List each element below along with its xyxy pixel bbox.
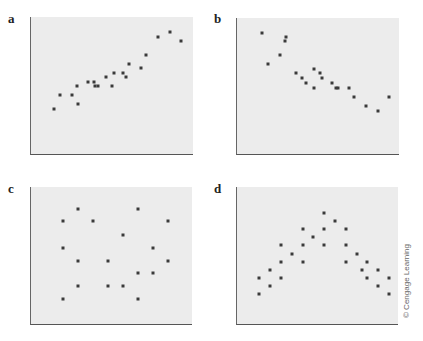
data-point bbox=[345, 261, 348, 264]
data-point bbox=[107, 285, 110, 288]
data-point bbox=[258, 293, 261, 296]
copyright-credit: © Cengage Learning bbox=[402, 244, 411, 318]
data-point bbox=[152, 247, 155, 250]
data-point bbox=[71, 94, 74, 97]
scatter-plot-c bbox=[30, 187, 192, 325]
data-point bbox=[388, 277, 391, 280]
data-point bbox=[107, 260, 110, 263]
data-point bbox=[111, 85, 114, 88]
data-point bbox=[77, 103, 80, 106]
data-point bbox=[331, 82, 334, 85]
data-point bbox=[122, 72, 125, 75]
data-point bbox=[77, 285, 80, 288]
data-point bbox=[345, 244, 348, 247]
data-point bbox=[59, 94, 62, 97]
data-point bbox=[62, 247, 65, 250]
data-point bbox=[62, 220, 65, 223]
data-point bbox=[269, 269, 272, 272]
data-point bbox=[377, 269, 380, 272]
data-point bbox=[94, 85, 97, 88]
data-point bbox=[361, 269, 364, 272]
data-point bbox=[301, 77, 304, 80]
data-point bbox=[280, 244, 283, 247]
data-point bbox=[280, 277, 283, 280]
scatter-points bbox=[31, 187, 193, 325]
data-point bbox=[323, 212, 326, 215]
data-point bbox=[261, 32, 264, 35]
data-point bbox=[93, 81, 96, 84]
data-point bbox=[113, 72, 116, 75]
data-point bbox=[128, 63, 131, 66]
panel-label-c: c bbox=[8, 182, 14, 195]
data-point bbox=[377, 110, 380, 113]
data-point bbox=[152, 272, 155, 275]
data-point bbox=[53, 108, 56, 111]
data-point bbox=[334, 220, 337, 223]
data-point bbox=[337, 87, 340, 90]
data-point bbox=[366, 277, 369, 280]
data-point bbox=[269, 285, 272, 288]
data-point bbox=[122, 285, 125, 288]
data-point bbox=[353, 96, 356, 99]
data-point bbox=[284, 40, 287, 43]
scatter-points bbox=[237, 187, 399, 325]
data-point bbox=[125, 76, 128, 79]
data-point bbox=[323, 244, 326, 247]
data-point bbox=[319, 72, 322, 75]
data-point bbox=[302, 228, 305, 231]
data-point bbox=[356, 253, 359, 256]
data-point bbox=[279, 54, 282, 57]
data-point bbox=[137, 298, 140, 301]
data-point bbox=[137, 208, 140, 211]
data-point bbox=[157, 36, 160, 39]
data-point bbox=[167, 260, 170, 263]
data-point bbox=[180, 40, 183, 43]
data-point bbox=[348, 87, 351, 90]
data-point bbox=[62, 298, 65, 301]
data-point bbox=[388, 293, 391, 296]
data-point bbox=[280, 261, 283, 264]
data-point bbox=[140, 67, 143, 70]
data-point bbox=[323, 228, 326, 231]
scatter-points bbox=[237, 18, 400, 155]
data-point bbox=[305, 82, 308, 85]
data-point bbox=[169, 31, 172, 34]
data-point bbox=[291, 253, 294, 256]
data-point bbox=[313, 87, 316, 90]
data-point bbox=[312, 236, 315, 239]
data-point bbox=[267, 63, 270, 66]
data-point bbox=[76, 85, 79, 88]
data-point bbox=[377, 285, 380, 288]
data-point bbox=[92, 220, 95, 223]
scatter-points bbox=[31, 17, 194, 155]
data-point bbox=[145, 54, 148, 57]
data-point bbox=[137, 272, 140, 275]
data-point bbox=[345, 228, 348, 231]
data-point bbox=[295, 72, 298, 75]
panel-label-d: d bbox=[214, 182, 221, 195]
data-point bbox=[365, 105, 368, 108]
data-point bbox=[366, 261, 369, 264]
data-point bbox=[122, 234, 125, 237]
data-point bbox=[77, 208, 80, 211]
data-point bbox=[167, 220, 170, 223]
data-point bbox=[105, 76, 108, 79]
panel-label-a: a bbox=[8, 12, 15, 25]
panel-label-b: b bbox=[214, 12, 221, 25]
scatter-plot-b bbox=[236, 18, 399, 155]
data-point bbox=[285, 36, 288, 39]
data-point bbox=[388, 96, 391, 99]
data-point bbox=[258, 277, 261, 280]
scatter-plot-a bbox=[30, 17, 193, 155]
data-point bbox=[302, 244, 305, 247]
data-point bbox=[313, 68, 316, 71]
data-point bbox=[321, 77, 324, 80]
data-point bbox=[302, 261, 305, 264]
data-point bbox=[77, 260, 80, 263]
scatter-plot-d bbox=[236, 187, 398, 325]
data-point bbox=[97, 85, 100, 88]
data-point bbox=[87, 81, 90, 84]
